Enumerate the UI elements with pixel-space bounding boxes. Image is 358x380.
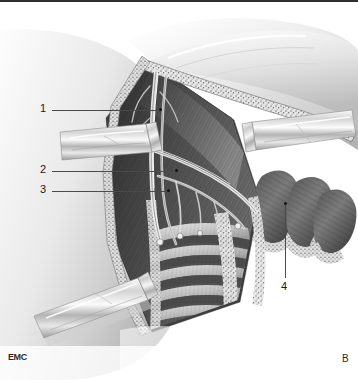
label-3-endpoint [167, 189, 170, 192]
label-4-text: 4 [281, 281, 287, 292]
label-3-leader [52, 191, 170, 192]
figure-panel: 1 2 3 4 EMC B [0, 0, 358, 380]
panel-letter: B [342, 353, 349, 364]
label-1-leader [52, 110, 162, 111]
label-4-endpoint [284, 202, 287, 205]
label-2-leader [52, 171, 178, 172]
retractor-right [242, 110, 356, 152]
label-2-text: 2 [40, 164, 46, 175]
label-4-leader [285, 204, 286, 278]
label-1-endpoint [159, 108, 162, 111]
label-3-text: 3 [40, 184, 46, 195]
anatomical-illustration [0, 0, 358, 380]
label-2-endpoint [175, 169, 178, 172]
publisher-watermark: EMC [8, 352, 27, 362]
divided-muscle-stumps [252, 171, 356, 264]
label-1-text: 1 [40, 103, 46, 114]
